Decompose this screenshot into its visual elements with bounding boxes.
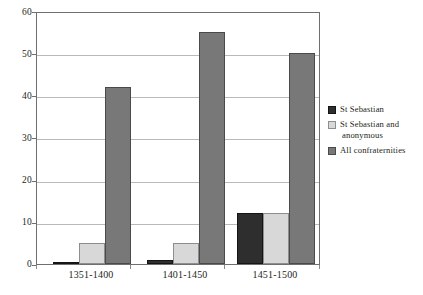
legend-label: All confraternities (340, 145, 423, 156)
bar-st-sebastian (147, 260, 173, 264)
legend-label: St Sebastian (340, 104, 423, 115)
bar-st-sebastian-and-anonymous (79, 243, 105, 264)
legend-label-continuation: anonymous (340, 130, 423, 141)
y-tick-label: 30 (2, 134, 32, 144)
bar-st-sebastian-and-anonymous (263, 213, 289, 264)
legend: St Sebastian St Sebastian and anonymous … (328, 104, 423, 160)
bar-all-confraternities (199, 32, 225, 264)
legend-swatch-icon (328, 147, 336, 155)
legend-item-st-sebastian-and-anonymous: St Sebastian and anonymous (328, 119, 423, 141)
y-axis: 60 50 40 30 20 10 0 (0, 12, 32, 265)
legend-label: St Sebastian and (340, 119, 423, 130)
y-tick-label: 60 (2, 8, 32, 18)
bar-st-sebastian-and-anonymous (173, 243, 199, 264)
bar-all-confraternities (289, 53, 315, 264)
legend-swatch-icon (328, 121, 336, 129)
legend-item-all-confraternities: All confraternities (328, 145, 423, 156)
legend-item-st-sebastian: St Sebastian (328, 104, 423, 115)
plot-area (36, 12, 320, 265)
bar-chart: 60 50 40 30 20 10 0 (0, 0, 423, 295)
x-tick-label: 1451-1500 (252, 269, 297, 281)
bar-group-1351-1400 (53, 13, 131, 264)
bar-st-sebastian (53, 262, 79, 264)
bar-group-1401-1450 (147, 13, 225, 264)
y-tick-label: 50 (2, 50, 32, 60)
bar-all-confraternities (105, 87, 131, 264)
x-axis: 1351-1400 1401-1450 1451-1500 (36, 269, 320, 287)
legend-swatch-icon (328, 106, 336, 114)
y-tick-label: 20 (2, 176, 32, 186)
y-tick-label: 10 (2, 218, 32, 228)
bar-st-sebastian (237, 213, 263, 264)
y-tick-label: 0 (2, 260, 32, 270)
y-tick-label: 40 (2, 92, 32, 102)
x-tick-label: 1401-1450 (162, 269, 207, 281)
x-tick-label: 1351-1400 (68, 269, 113, 281)
bar-group-1451-1500 (237, 13, 315, 264)
